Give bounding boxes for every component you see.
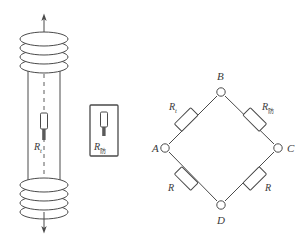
bridge-group: Rt R防 R R A B C D — [151, 70, 295, 226]
node-c-terminal — [274, 144, 282, 152]
node-b-label: B — [217, 70, 224, 82]
boxed-thermistor-group: R防 — [90, 105, 118, 156]
node-b-terminal — [217, 88, 225, 96]
node-d-label: D — [216, 214, 225, 226]
resistor-ab — [174, 108, 198, 132]
figure-canvas: Rt R防 Rt R防 — [0, 0, 306, 247]
node-c-label: C — [287, 142, 295, 154]
node-a-label: A — [151, 142, 159, 154]
thermistor-element-icon — [41, 113, 48, 140]
coil-thermistor-label: Rt — [33, 141, 42, 154]
resistor-dc — [243, 167, 267, 191]
bridge-wires — [169, 96, 274, 201]
resistor-ad-label: R — [167, 182, 174, 193]
top-coil — [20, 32, 68, 73]
node-a-terminal — [161, 144, 169, 152]
resistor-bc-label: R防 — [261, 101, 274, 115]
resistor-ab-label: Rt — [168, 101, 177, 114]
node-d-terminal — [217, 201, 225, 209]
coil-device-group: Rt — [20, 14, 68, 234]
physics-figure: Rt R防 Rt R防 — [0, 0, 306, 247]
resistor-dc-label: R — [264, 182, 271, 193]
